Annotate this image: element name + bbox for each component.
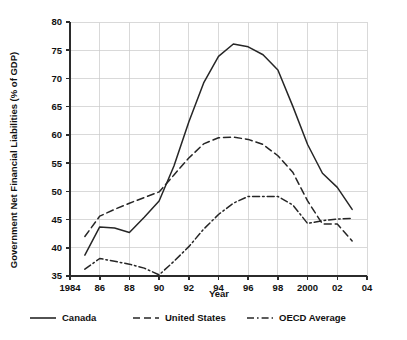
x-tick-label: 96 bbox=[243, 282, 254, 293]
y-tick-label: 60 bbox=[51, 129, 62, 140]
x-tick-label: 86 bbox=[94, 282, 105, 293]
x-tick-label: 02 bbox=[332, 282, 343, 293]
y-axis-tick-labels: 35404550556065707580 bbox=[51, 16, 62, 281]
x-tick-label: 98 bbox=[273, 282, 284, 293]
y-tick-label: 55 bbox=[51, 158, 62, 169]
legend-label-oecd-average: OECD Average bbox=[279, 312, 346, 323]
x-tick-label: 1984 bbox=[59, 282, 81, 293]
x-tick-label: 2000 bbox=[297, 282, 318, 293]
x-tick-label: 88 bbox=[124, 282, 135, 293]
y-tick-label: 65 bbox=[51, 101, 62, 112]
y-tick-label: 70 bbox=[51, 73, 62, 84]
y-axis-title: Government Net Financial Liabilities (% … bbox=[8, 52, 19, 268]
line-chart: 35404550556065707580 1984868890929496982… bbox=[0, 0, 407, 340]
y-tick-label: 80 bbox=[51, 16, 62, 27]
x-tick-label: 90 bbox=[154, 282, 165, 293]
legend-label-canada: Canada bbox=[62, 312, 97, 323]
y-tick-label: 45 bbox=[51, 214, 62, 225]
y-tick-label: 75 bbox=[51, 45, 62, 56]
y-tick-label: 50 bbox=[51, 186, 62, 197]
chart-figure: 35404550556065707580 1984868890929496982… bbox=[0, 0, 407, 340]
x-tick-label: 92 bbox=[184, 282, 195, 293]
chart-legend: CanadaUnited StatesOECD Average bbox=[30, 312, 346, 323]
x-axis-title: Year bbox=[209, 288, 229, 299]
y-tick-label: 35 bbox=[51, 270, 62, 281]
x-tick-label: 04 bbox=[362, 282, 373, 293]
legend-label-united-states: United States bbox=[165, 312, 226, 323]
y-tick-label: 40 bbox=[51, 242, 62, 253]
gridlines bbox=[70, 22, 367, 276]
